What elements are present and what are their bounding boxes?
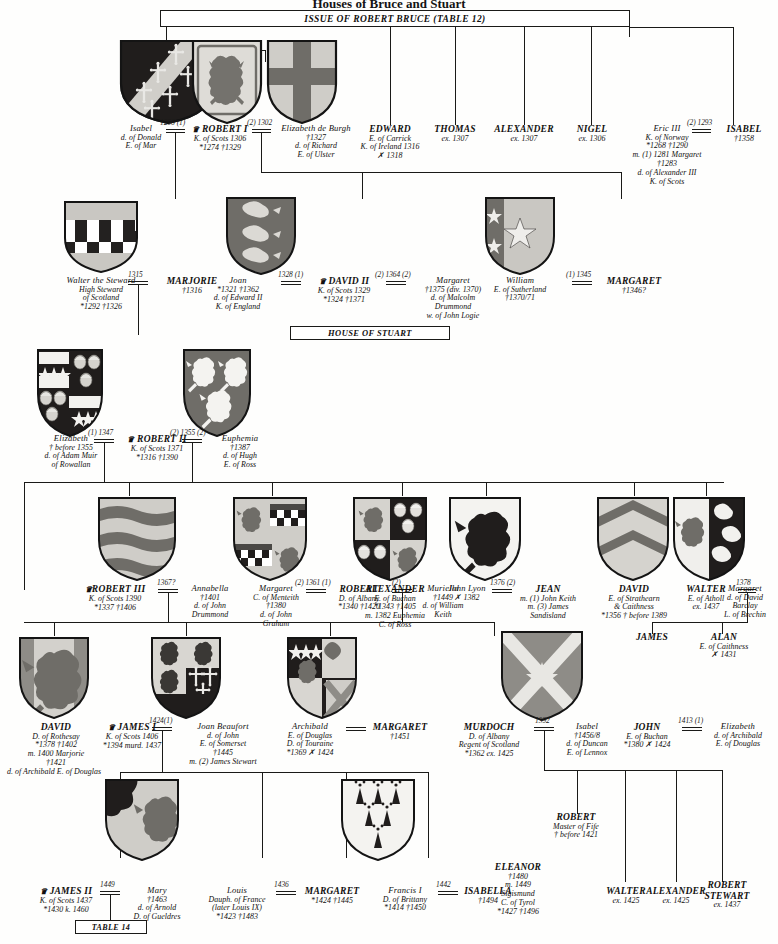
person-isabel-mar: Isabel d. of Donald E. of Mar <box>108 124 174 151</box>
connector <box>168 618 169 622</box>
shield-ross <box>182 348 252 438</box>
person-isabel-norway: ISABEL †1358 <box>714 124 774 143</box>
shield-atholl <box>672 496 746 582</box>
connector <box>390 27 391 125</box>
connector <box>402 618 403 622</box>
person-margaret-douglas: MARGARET †1451 <box>362 722 438 741</box>
person-murdoch-albany: MURDOCH D. of Albany Regent of Scotland … <box>440 722 538 759</box>
person-john-lyon: John Lyon ✗ 1382 <box>440 584 494 602</box>
genealogy-chart: Houses of Bruce and Stuart ISSUE OF ROBE… <box>0 0 778 944</box>
marriage-bar-william-margaret <box>572 281 592 286</box>
connector <box>634 482 635 496</box>
connector <box>486 482 487 496</box>
marriage-date: (1) 1347 <box>88 428 113 437</box>
marriage-date: 1392 <box>535 716 550 725</box>
shield-robert-iii <box>97 496 177 582</box>
person-john-buchan: JOHN E. of Buchan *1380 ✗ 1424 <box>608 722 686 750</box>
connector <box>544 770 722 771</box>
connector <box>577 770 578 814</box>
connector <box>262 772 263 858</box>
shield-james-i <box>150 636 222 720</box>
person-euphemia-ross: Euphemia †1387 d. of Hugh E. of Ross <box>202 434 278 470</box>
crown-icon: ♛ <box>127 435 134 444</box>
connector <box>24 622 494 623</box>
house-of-stuart-band: HOUSE OF STUART <box>290 326 450 340</box>
marriage-date: 1449 <box>100 880 115 889</box>
marriage-date: 1315 <box>128 270 143 279</box>
connector <box>129 482 130 496</box>
connector <box>330 622 331 636</box>
connector <box>629 27 733 28</box>
connector <box>621 172 622 199</box>
person-james-ii: ♛ JAMES II K. of Scots 1437 *1430 k. 146… <box>20 886 112 915</box>
person-mary-gueldres: Mary †1463 d. of Arnold D. of Gueldres <box>118 886 196 922</box>
connector <box>120 772 428 773</box>
person-louis-dauphin: Louis Dauph. of France (later Louis IX) … <box>194 886 280 922</box>
shield-albany <box>232 496 308 582</box>
connector <box>175 133 176 199</box>
crown-icon: ♛ <box>85 585 92 594</box>
connector <box>629 27 630 37</box>
marriage-date: 1424(1) <box>149 716 172 725</box>
table-14-band: TABLE 14 <box>75 920 147 934</box>
person-archibald-douglas: Archibald E. of Douglas D. of Touraine *… <box>272 722 348 758</box>
person-nigel: NIGEL ex. 1306 <box>562 124 622 143</box>
marriage-date: 1442 <box>436 880 451 889</box>
marriage-date: (2) 1302 <box>247 118 272 127</box>
shield-gueldres <box>104 778 180 862</box>
connector <box>524 27 525 125</box>
connector <box>706 482 707 496</box>
connector <box>625 770 626 882</box>
marriage-date: (1) 1345 <box>566 270 591 279</box>
shield-mure-rowallan <box>36 348 104 438</box>
person-james-son: JAMES <box>624 632 680 643</box>
connector <box>162 731 163 773</box>
person-alan-caithness: ALAN E. of Caithness ✗ 1431 <box>690 632 758 660</box>
shield-stewart <box>63 200 139 274</box>
connector <box>747 593 748 623</box>
connector <box>402 482 403 496</box>
person-margaret-barclay: Margaret d. of David Barclay L. of Brech… <box>712 584 778 620</box>
connector <box>362 172 363 199</box>
connector <box>733 27 734 125</box>
marriage-bar-eric-isabel <box>692 129 711 134</box>
person-annabella-drummond: Annabella †1401 d. of John Drummond <box>178 584 242 620</box>
connector <box>192 443 193 483</box>
connector <box>494 622 495 636</box>
shield-saltire-albany <box>500 630 584 722</box>
connector <box>591 27 592 125</box>
connector <box>428 772 429 858</box>
shield-rothesay <box>18 636 90 720</box>
person-joan-beaufort: Joan Beaufort d. of John E. of Somerset … <box>170 722 276 767</box>
shield-buchan <box>352 496 428 582</box>
crown-icon: ♛ <box>192 125 199 134</box>
shield-royal-arms-scotland <box>190 38 264 126</box>
marriage-date: 1436 <box>274 880 289 889</box>
crown-icon: ♛ <box>108 723 115 732</box>
connector <box>722 770 723 882</box>
connector <box>138 285 139 335</box>
person-joan: Joan *1321 †1362 d. of Edward II K. of E… <box>200 276 276 312</box>
person-francis-i-brittany: Francis I D. of Brittany *1414 †1450 <box>366 886 444 913</box>
marriage-date: (2) 1355 (2) <box>170 428 206 437</box>
marriage-date: 1367? <box>157 578 175 587</box>
connector <box>272 482 273 496</box>
shield-brittany-ermine <box>340 778 416 862</box>
marriage-date: (2) 1293 <box>687 118 712 127</box>
connector <box>261 133 262 173</box>
person-robert-iii: ♛ROBERT III K. of Scots 1390 *1337 †1406 <box>72 584 158 613</box>
marriage-bar-joan-david-ii <box>281 281 301 286</box>
connector <box>261 172 621 173</box>
shield-de-burgh <box>265 38 339 126</box>
connector <box>104 443 105 483</box>
connector <box>110 895 111 921</box>
connector <box>186 622 187 636</box>
crown-icon: ♛ <box>319 277 326 286</box>
shield-royal-arms-england <box>225 196 297 276</box>
person-david-ii: ♛ DAVID II K. of Scots 1329 *1324 †1371 <box>302 276 386 305</box>
person-elizabeth-douglas: Elizabeth d. of Archibald E. of Douglas <box>698 722 778 749</box>
person-jean: JEAN m. (1) John Keith m. (3) James Sand… <box>508 584 588 621</box>
connector <box>455 27 456 125</box>
person-william-sutherland: William E. of Sutherland †1370/71 <box>476 276 564 303</box>
shield-sutherland <box>484 196 556 276</box>
